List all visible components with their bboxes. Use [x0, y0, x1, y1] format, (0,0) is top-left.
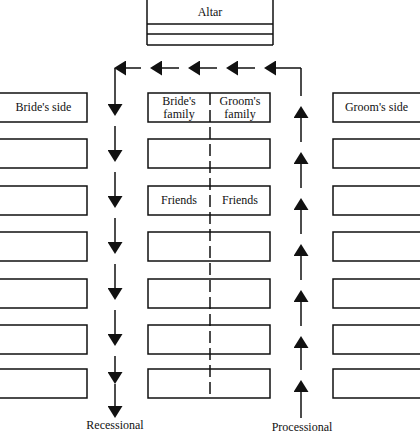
- left-pews: [0, 93, 87, 398]
- grooms-family-label: Groom's family: [210, 95, 270, 121]
- processional-label: Processional: [266, 421, 338, 434]
- friends-left-label: Friends: [148, 194, 210, 207]
- center-pews: [148, 93, 270, 398]
- brides-family-line2: family: [148, 108, 210, 121]
- seating-diagram: [0, 0, 420, 440]
- right-pews: [333, 93, 420, 398]
- grooms-side-label: Groom's side: [333, 101, 420, 114]
- recessional-label: Recessional: [80, 419, 150, 432]
- altar-label: Altar: [147, 6, 273, 19]
- altar-crossing-path: [115, 68, 301, 80]
- grooms-family-line2: family: [210, 108, 270, 121]
- brides-family-label: Bride's family: [148, 95, 210, 121]
- brides-side-label: Bride's side: [0, 101, 87, 114]
- friends-right-label: Friends: [210, 194, 270, 207]
